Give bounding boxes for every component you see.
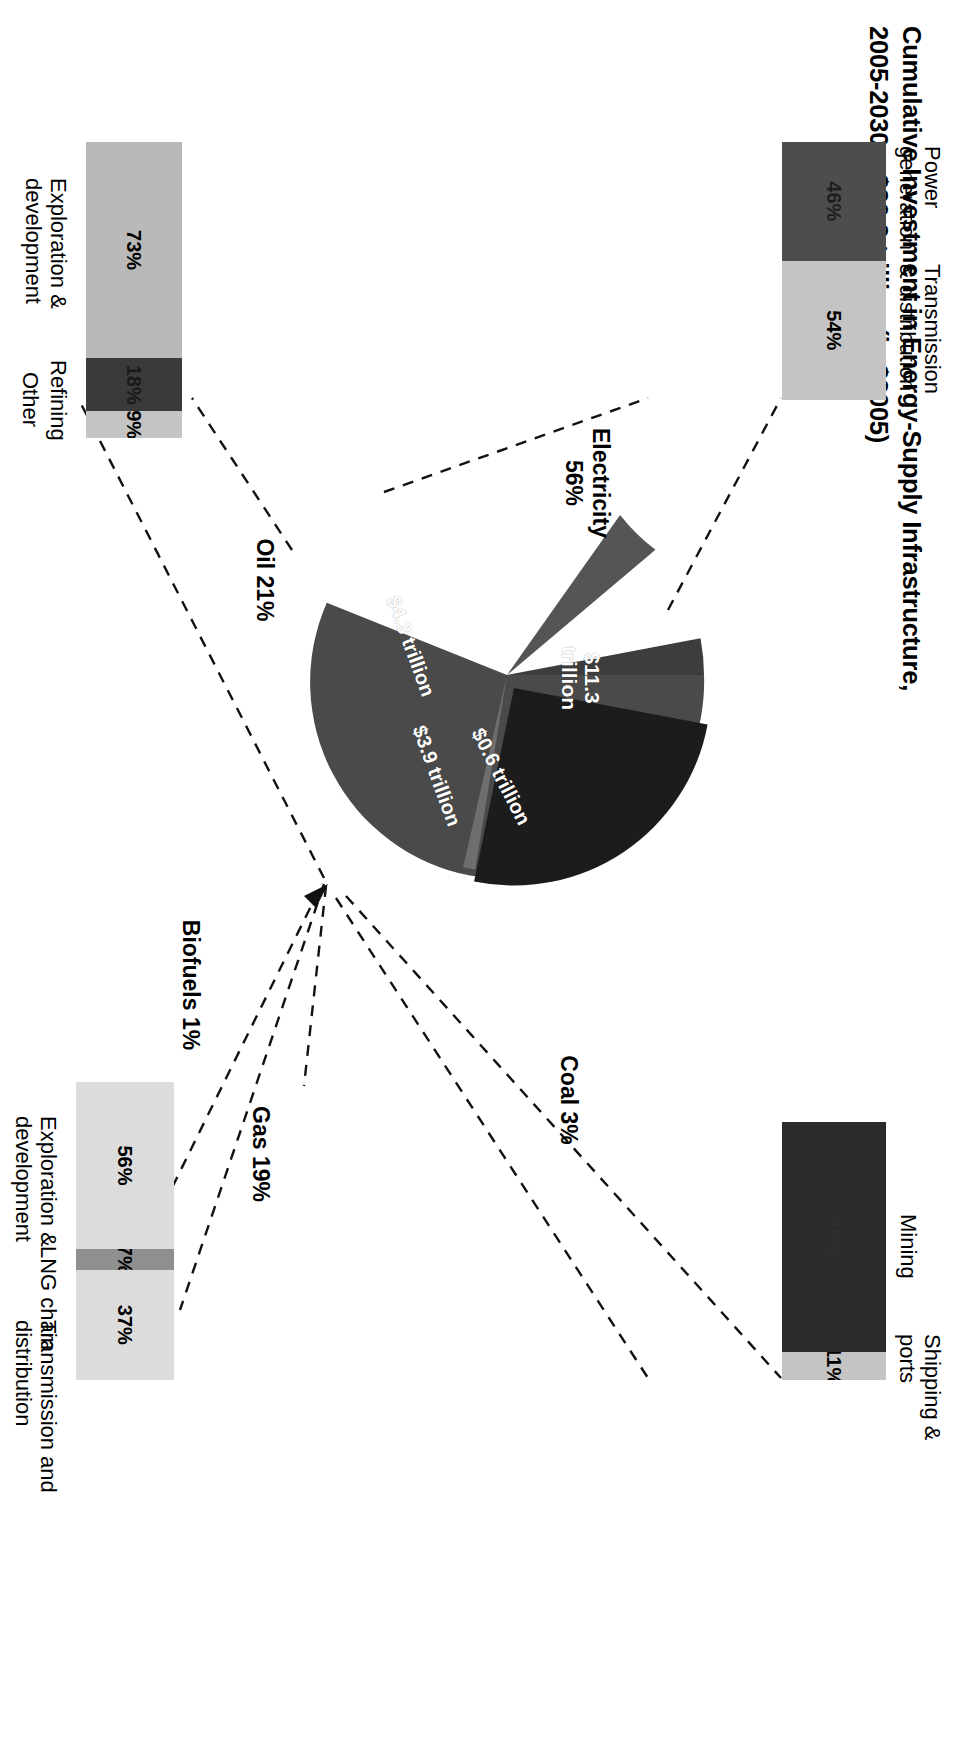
pie-value-electricity: $11.3 trillion xyxy=(558,588,604,768)
oil-seg1-legend: Exploration & development xyxy=(21,178,70,309)
pie-chart: $11.3 trillion $4.3 trillion $3.9 trilli… xyxy=(284,470,714,900)
electricity-segment-transmission-distribution-pct: 54% xyxy=(824,310,844,350)
pie-value-electricity-line2: trillion xyxy=(558,646,581,710)
gas-segment-transmission-distribution-pct: 37% xyxy=(115,1305,135,1345)
oil-stacked-bar: 73% 18% 9% xyxy=(86,142,182,438)
oil-segment-refining: 18% xyxy=(86,358,182,411)
gas-seg3-legend: Transmission and distribution xyxy=(11,1320,60,1493)
connector-biofuels xyxy=(304,886,326,1086)
gas-breakdown: 56% 7% 37% Exploration & development LNG… xyxy=(76,1082,174,1380)
coal-seg2-legend: Shipping & ports xyxy=(895,1334,944,1440)
callout-label-gas: Gas 19% xyxy=(247,1054,274,1254)
callout-electricity-line2: 56% xyxy=(561,460,587,506)
oil-segment-other: 9% xyxy=(86,411,182,438)
pie-svg xyxy=(284,470,714,900)
electricity-seg2-legend: Transmission & distribution xyxy=(895,264,944,394)
gas-segment-transmission-distribution: 37% xyxy=(76,1270,174,1380)
gas-segment-lng-chain-pct: 7% xyxy=(115,1249,135,1270)
oil-seg3-legend: Other xyxy=(17,372,42,427)
coal-segment-mining-pct: 89% xyxy=(824,1217,844,1257)
oil-segment-exploration-development: 73% xyxy=(86,142,182,358)
oil-segment-other-pct: 9% xyxy=(124,411,144,438)
gas-segment-exploration-development-pct: 56% xyxy=(115,1145,135,1185)
callout-electricity-line1: Electricity xyxy=(588,428,614,538)
oil-segment-exploration-development-pct: 73% xyxy=(124,230,144,270)
oil-segment-refining-pct: 18% xyxy=(124,365,144,405)
coal-breakdown: Mining Shipping & ports 89% 11% xyxy=(782,1122,886,1380)
electricity-stacked-bar: 46% 54% xyxy=(782,142,886,400)
chart-title-line-2: 2005-2030 = $20.2 trillion (in $2005) xyxy=(862,26,895,786)
oil-breakdown: 73% 18% 9% Exploration & development Ref… xyxy=(86,142,182,438)
electricity-seg1-legend: Power generation xyxy=(895,146,944,250)
callout-label-oil: Oil 21% xyxy=(251,480,278,680)
chart-figure: Cumulative Investment in Energy-Supply I… xyxy=(0,0,964,1756)
coal-segment-shipping-ports-pct: 11% xyxy=(824,1352,844,1380)
callout-label-electricity: Electricity 56% xyxy=(560,378,614,588)
connector-coal-b xyxy=(336,898,648,1378)
coal-seg1-legend: Mining xyxy=(895,1214,920,1279)
electricity-breakdown: Power generation Transmission & distribu… xyxy=(782,142,886,400)
pie-value-electricity-line1: $11.3 xyxy=(581,652,604,703)
electricity-segment-transmission-distribution: 54% xyxy=(782,261,886,400)
coal-segment-mining: 89% xyxy=(782,1122,886,1352)
coal-stacked-bar: 89% 11% xyxy=(782,1122,886,1380)
gas-segment-lng-chain: 7% xyxy=(76,1249,174,1270)
callout-label-biofuels: Biofuels 1% xyxy=(177,870,204,1100)
callout-label-coal: Coal 3% xyxy=(555,1000,582,1200)
gas-seg1-legend: Exploration & development xyxy=(11,1116,60,1247)
coal-segment-shipping-ports: 11% xyxy=(782,1352,886,1380)
oil-seg2-legend: Refining xyxy=(45,360,70,441)
electricity-segment-power-generation-pct: 46% xyxy=(824,181,844,221)
gas-stacked-bar: 56% 7% 37% xyxy=(76,1082,174,1380)
gas-segment-exploration-development: 56% xyxy=(76,1082,174,1249)
chart-title: Cumulative Investment in Energy-Supply I… xyxy=(862,26,928,786)
electricity-segment-power-generation: 46% xyxy=(782,142,886,261)
